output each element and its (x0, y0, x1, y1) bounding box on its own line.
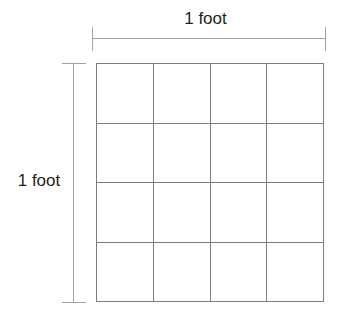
one-square-foot-diagram: 1 foot 1 foot (0, 0, 341, 317)
grid-cell-r4-c3 (211, 243, 268, 303)
grid-cell-r1-c3 (211, 64, 268, 124)
top-dimension-rule (92, 38, 326, 39)
grid-cell-r2-c2 (154, 124, 211, 184)
grid-cell-r4-c4 (267, 243, 324, 303)
grid-cell-r3-c2 (154, 183, 211, 243)
left-dimension-label: 1 foot (10, 172, 68, 189)
square-grid (96, 63, 324, 302)
grid-cell-r4-c1 (97, 243, 154, 303)
top-dimension-line (92, 27, 326, 51)
grid-cell-r4-c2 (154, 243, 211, 303)
left-dimension-line (62, 63, 86, 303)
left-dimension-tick-top (62, 63, 86, 64)
grid-cell-r3-c1 (97, 183, 154, 243)
grid-cell-r2-c4 (267, 124, 324, 184)
grid-cell-r2-c3 (211, 124, 268, 184)
top-dimension-label: 1 foot (0, 10, 341, 27)
grid-cell-r2-c1 (97, 124, 154, 184)
top-dimension-tick-left (92, 27, 93, 51)
grid-cell-r3-c3 (211, 183, 268, 243)
grid-cell-r1-c4 (267, 64, 324, 124)
grid-cell-r3-c4 (267, 183, 324, 243)
grid-cell-r1-c1 (97, 64, 154, 124)
left-dimension-rule (73, 63, 74, 303)
grid-cell-r1-c2 (154, 64, 211, 124)
top-dimension-tick-right (325, 27, 326, 51)
left-dimension-tick-bottom (62, 302, 86, 303)
